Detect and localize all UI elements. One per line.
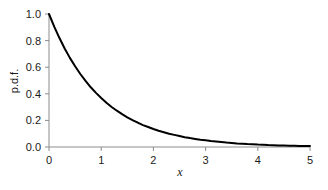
y-axis-title: p.d.f. [8, 69, 20, 93]
y-tick-label: 0.6 [26, 61, 41, 73]
x-tick-label: 2 [150, 154, 156, 166]
chart-figure: 0.00.20.40.60.81.0 p.d.f. 012345 x [0, 0, 328, 190]
x-tick-label: 0 [46, 154, 52, 166]
y-tick-label: 0.2 [26, 114, 41, 126]
y-tick-label: 0.4 [26, 88, 41, 100]
x-tick-label: 4 [255, 154, 261, 166]
x-tick-label: 1 [98, 154, 104, 166]
y-tick-label: 0.0 [26, 141, 41, 153]
x-tick-label: 3 [203, 154, 209, 166]
y-tick-label: 0.8 [26, 35, 41, 47]
x-tick-label: 5 [307, 154, 313, 166]
x-axis-title: x [176, 165, 183, 179]
exponential-pdf-chart: 0.00.20.40.60.81.0 p.d.f. 012345 x [0, 0, 328, 190]
y-tick-label: 1.0 [26, 8, 41, 20]
